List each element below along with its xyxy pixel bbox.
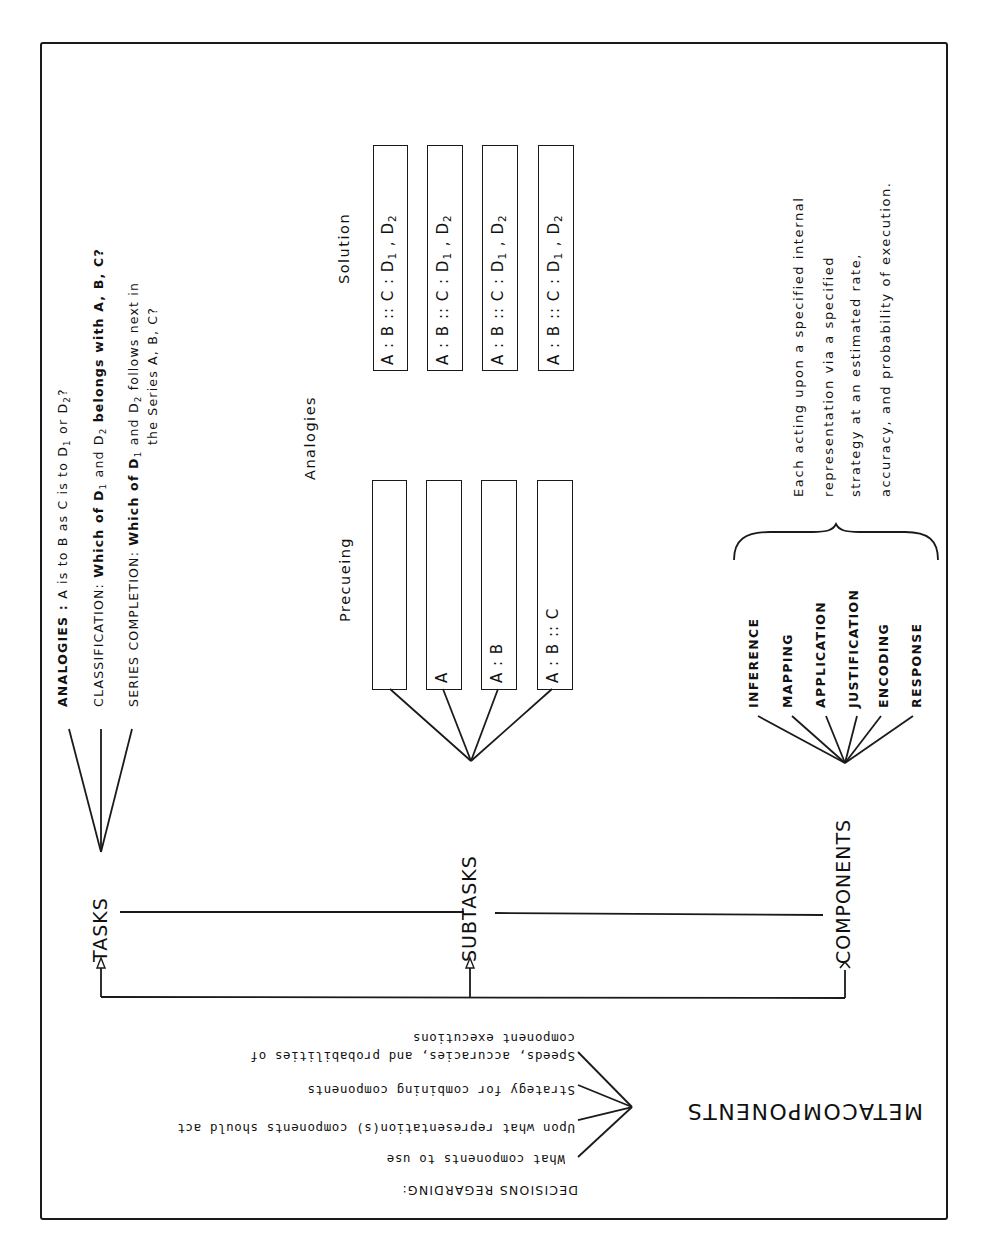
- tasks-label: TASKS: [91, 897, 110, 962]
- precueing-box-2: [426, 480, 462, 690]
- task-classification: CLASSIFICATION: Which of D1 and D2 belon…: [93, 248, 108, 707]
- subscript: 2: [441, 214, 453, 222]
- task-analogies-name: ANALOGIES :: [55, 604, 70, 707]
- analogies-group-label: Analogies: [303, 396, 318, 480]
- subscript: 1: [62, 439, 72, 446]
- solution-text: , D: [545, 222, 563, 252]
- solution-box-2-text: A : B :: C : D1 , D2: [436, 214, 453, 365]
- task-classification-name: CLASSIFICATION:: [91, 583, 106, 707]
- task-analogies-text: A is to B as C is to D: [55, 446, 70, 599]
- subtasks-label: SUBTASKS: [460, 855, 479, 962]
- solution-text: A : B :: C : D: [379, 260, 397, 365]
- subscript: 2: [98, 428, 108, 435]
- components-description-line-2: representation via a specified: [822, 256, 835, 497]
- meta-item-which-components: What components to use: [386, 1153, 565, 1166]
- subscript: 2: [552, 214, 564, 222]
- subscript: 1: [441, 252, 453, 260]
- meta-item-speeds: Speeds, accuracies, and probabilities of: [250, 1050, 575, 1063]
- precueing-box-1: [372, 480, 407, 690]
- component-mapping: MAPPING: [782, 633, 795, 708]
- component-justification: JUSTIFICATION: [848, 589, 861, 708]
- task-series-line2: the Series A, B, C?: [147, 307, 160, 445]
- solution-text: , D: [489, 222, 507, 252]
- solution-text: A : B :: C : D: [434, 260, 452, 365]
- solution-box-4-text: A : B :: C : D1 , D2: [547, 214, 564, 365]
- task-classification-mid: and D: [91, 434, 106, 477]
- task-series-text: Which of D: [126, 457, 141, 545]
- subscript: 2: [386, 214, 398, 222]
- task-analogies: ANALOGIES : A is to B as C is to D1 or D…: [57, 388, 72, 707]
- subscript: 2: [496, 214, 508, 222]
- task-series-tail: follows next in: [126, 282, 141, 390]
- component-encoding: ENCODING: [878, 623, 891, 708]
- subscript: 1: [386, 252, 398, 260]
- components-description-line-3: strategy at an estimated rate,: [849, 253, 862, 497]
- precueing-box-2-text: A: [435, 672, 450, 683]
- solution-text: A : B :: C : D: [489, 260, 507, 365]
- component-response: RESPONSE: [911, 623, 924, 708]
- solution-box-1-text: A : B :: C : D1 , D2: [381, 214, 398, 365]
- subscript: 1: [133, 451, 143, 458]
- components-description-line-1: Each acting upon a specified internal: [792, 197, 805, 498]
- meta-heading: DECISIONS REGARDING:: [401, 1184, 578, 1197]
- task-series-mid: and D: [126, 402, 141, 445]
- subscript: 1: [496, 252, 508, 260]
- solution-box-3-text: A : B :: C : D1 , D2: [491, 214, 508, 365]
- component-inference: INFERENCE: [748, 618, 761, 708]
- task-series-name: SERIES COMPLETION:: [126, 551, 141, 707]
- metacomponents-label: METACOMPONENTS: [686, 1100, 923, 1122]
- subscript: 2: [133, 395, 143, 402]
- precueing-label: Precueing: [338, 537, 353, 622]
- meta-item-speeds-line2: component executions: [412, 1032, 575, 1045]
- solution-text: A : B :: C : D: [545, 260, 563, 365]
- task-classification-tail: belongs with A, B, C?: [91, 248, 106, 422]
- meta-item-representation: Upon what representation(s) components s…: [177, 1122, 575, 1135]
- subscript: 1: [552, 252, 564, 260]
- components-description-line-4: accuracy, and probability of execution.: [879, 181, 892, 497]
- precueing-box-3-text: A : B: [490, 643, 505, 683]
- component-application: APPLICATION: [815, 601, 828, 708]
- subscript: 2: [62, 396, 72, 403]
- solution-label: Solution: [337, 213, 352, 284]
- components-label: COMPONENTS: [834, 819, 853, 964]
- solution-text: , D: [379, 222, 397, 252]
- task-analogies-tail: or D: [55, 403, 70, 434]
- task-series-completion: SERIES COMPLETION: Which of D1 and D2 fo…: [128, 282, 143, 707]
- subscript: 1: [98, 483, 108, 490]
- precueing-box-4-text: A : B :: C: [546, 608, 561, 683]
- meta-item-strategy: Strategy for combining components: [307, 1084, 575, 1097]
- question-mark: ?: [55, 388, 70, 396]
- solution-text: , D: [434, 222, 452, 252]
- task-classification-text: Which of D: [91, 489, 106, 577]
